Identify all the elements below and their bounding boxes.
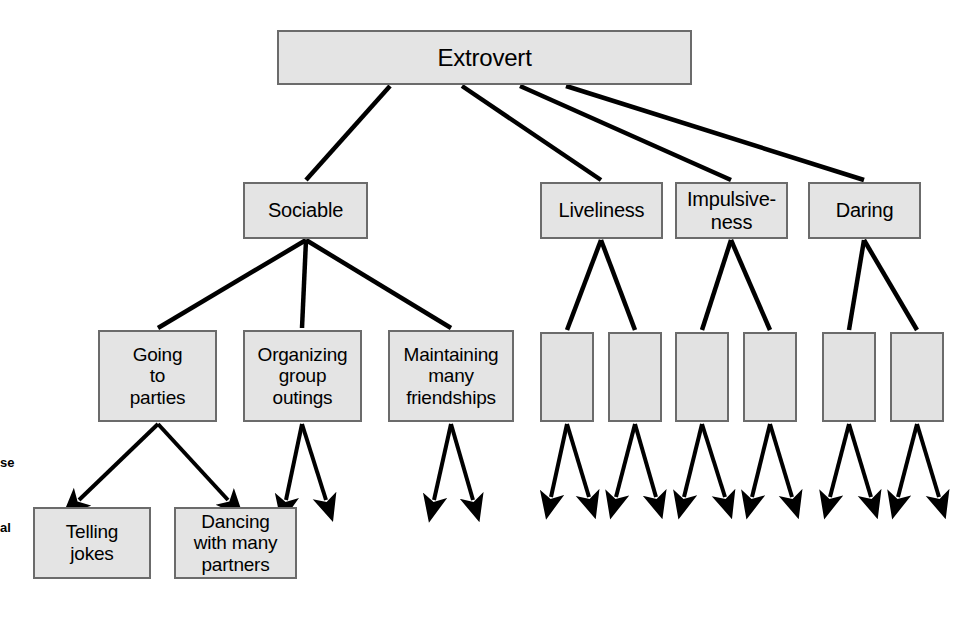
arrow-from-going-to-parties [79,424,158,500]
node-habit-blank-3 [675,332,729,422]
node-label-sociable: Sociable [268,199,343,222]
arrow-from-habit-blank-3 [684,424,702,497]
node-habit-blank-5 [822,332,876,422]
connector-liveliness-to-habit-blank-1 [567,240,601,330]
node-sociable: Sociable [243,182,368,239]
connector-sociable-to-going-to-parties [158,240,306,328]
node-going-to-parties: Going to parties [98,330,217,422]
arrow-from-habit-blank-5 [849,424,871,497]
node-daring: Daring [808,182,921,239]
arrow-from-organizing-group-outings [286,424,302,500]
arrow-from-maintaining-many-friendships [451,424,473,500]
connector-liveliness-to-habit-blank-2 [601,240,635,330]
node-extrovert: Extrovert [277,30,692,85]
node-label-maintaining-many-friendships: Maintaining many friendships [404,344,499,409]
arrow-from-habit-blank-6 [917,424,939,497]
node-habit-blank-6 [890,332,944,422]
arrow-from-habit-blank-1 [567,424,589,497]
node-label-daring: Daring [836,199,894,222]
connector-sociable-to-organizing-group-outings [302,240,306,328]
node-label-extrovert: Extrovert [437,44,531,71]
node-label-liveliness: Liveliness [559,199,645,222]
node-liveliness: Liveliness [540,182,663,239]
node-label-organizing-group-outings: Organizing group outings [258,344,348,409]
diagram-canvas: ExtrovertSociableLivelinessImpulsive- ne… [0,0,971,627]
arrow-from-habit-blank-4 [770,424,792,497]
arrow-from-habit-blank-5 [830,424,849,497]
arrow-from-habit-blank-4 [752,424,770,497]
node-habit-blank-4 [743,332,797,422]
arrow-from-habit-blank-3 [702,424,725,497]
connector-sociable-to-maintaining-many-friendships [306,240,451,328]
connector-extrovert-to-daring [566,86,864,180]
connector-extrovert-to-impulsiveness [520,86,731,180]
connector-extrovert-to-sociable [306,86,390,180]
node-dancing-with-many-partners: Dancing with many partners [174,507,297,579]
margin-note-lower: al [0,520,11,535]
connector-daring-to-habit-blank-6 [864,240,917,330]
node-label-telling-jokes: Telling jokes [66,521,118,564]
connector-daring-to-habit-blank-5 [849,240,864,330]
connector-impulsiveness-to-habit-blank-4 [731,240,770,330]
margin-note-upper: se [0,455,14,470]
node-label-going-to-parties: Going to parties [130,344,186,409]
connector-extrovert-to-liveliness [462,86,601,180]
node-maintaining-many-friendships: Maintaining many friendships [388,330,514,422]
arrow-from-habit-blank-1 [551,424,567,497]
arrow-from-maintaining-many-friendships [434,424,451,500]
node-impulsiveness: Impulsive- ness [675,182,788,239]
arrow-from-habit-blank-2 [635,424,656,497]
node-habit-blank-1 [540,332,594,422]
arrow-from-going-to-parties [158,424,228,500]
tree-arrows [79,424,939,500]
connector-impulsiveness-to-habit-blank-3 [702,240,731,330]
arrow-from-organizing-group-outings [302,424,326,500]
node-habit-blank-2 [608,332,662,422]
node-organizing-group-outings: Organizing group outings [243,330,362,422]
node-label-dancing-with-many-partners: Dancing with many partners [194,511,278,576]
node-telling-jokes: Telling jokes [33,507,151,579]
arrow-from-habit-blank-6 [898,424,917,497]
arrow-from-habit-blank-2 [616,424,635,497]
node-label-impulsiveness: Impulsive- ness [687,188,776,234]
